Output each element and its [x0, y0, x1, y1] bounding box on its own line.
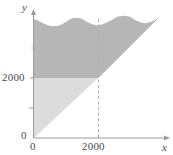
lower-light-region	[34, 78, 98, 138]
x-tick-label-0: 0	[30, 141, 36, 152]
upper-dark-region	[34, 16, 158, 78]
y-axis-label: y	[22, 2, 27, 13]
x-axis-label: x	[162, 142, 167, 153]
x-axis-arrowhead	[164, 136, 170, 141]
y-axis-arrowhead	[31, 9, 36, 15]
x-tick-label-2000: 2000	[82, 141, 105, 152]
y-tick-label-0: 0	[21, 130, 27, 141]
y-tick-label-2000: 2000	[2, 72, 25, 83]
shaded-region-figure: y x 2000 0 0 2000	[0, 0, 173, 155]
